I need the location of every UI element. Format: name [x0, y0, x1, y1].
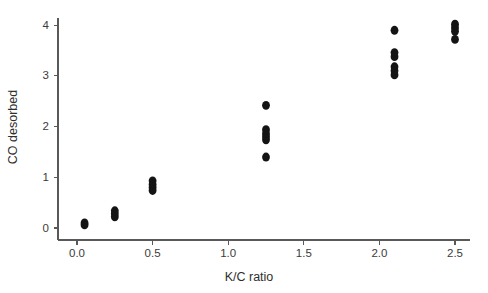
x-tick-label: 2.5	[447, 247, 463, 259]
y-tick-label: 1	[43, 171, 49, 183]
x-tick-label: 1.0	[220, 247, 236, 259]
data-point	[111, 206, 119, 215]
y-axis-title: CO desorbed	[6, 90, 20, 164]
scatter-plot-figure: 012340.00.51.01.52.02.5 K/C ratio CO des…	[0, 0, 488, 293]
y-tick-label: 4	[43, 19, 50, 31]
data-point	[262, 101, 270, 110]
x-tick-label: 1.5	[296, 247, 312, 259]
x-tick-label: 2.0	[371, 247, 387, 259]
data-point	[262, 125, 270, 134]
y-tick-label: 2	[43, 120, 49, 132]
x-tick-label: 0.0	[69, 247, 85, 259]
x-tick-label: 0.5	[145, 247, 161, 259]
data-point	[391, 48, 399, 57]
x-axis-title: K/C ratio	[225, 270, 274, 284]
data-point	[391, 62, 399, 71]
y-tick-label: 3	[43, 69, 49, 81]
data-points	[81, 20, 459, 230]
plot-canvas: 012340.00.51.01.52.02.5 K/C ratio CO des…	[0, 0, 488, 293]
data-point	[262, 153, 270, 162]
data-point	[451, 35, 459, 44]
axis-tick-labels: 012340.00.51.01.52.02.5	[43, 19, 463, 259]
data-point	[391, 26, 399, 35]
data-point	[81, 219, 89, 228]
data-point	[451, 20, 459, 29]
data-point	[149, 176, 157, 185]
y-tick-label: 0	[43, 222, 49, 234]
